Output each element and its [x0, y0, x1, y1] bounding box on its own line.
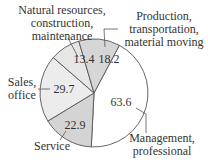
- label-natural-1: Natural resources,: [18, 3, 105, 17]
- label-sales-2: office: [8, 88, 36, 102]
- label-natural-2: construction,: [31, 16, 93, 30]
- label-sales-1: Sales,: [8, 75, 36, 89]
- value-management: 63.6: [111, 95, 132, 109]
- value-natural: 13.4: [74, 52, 95, 66]
- pie-chart: 13.4 18.2 29.7 63.6 22.9 Natural resourc…: [0, 0, 208, 166]
- label-production-2: transportation,: [129, 22, 199, 36]
- label-service: Service: [34, 139, 70, 153]
- label-management-2: professional: [133, 144, 192, 158]
- value-sales: 29.7: [54, 82, 75, 96]
- label-management-1: Management,: [129, 131, 195, 145]
- value-service: 22.9: [65, 118, 86, 132]
- label-natural-3: maintenance: [32, 29, 93, 43]
- label-production-3: material moving: [125, 35, 204, 49]
- value-production: 18.2: [99, 52, 120, 66]
- label-production-1: Production,: [136, 9, 192, 23]
